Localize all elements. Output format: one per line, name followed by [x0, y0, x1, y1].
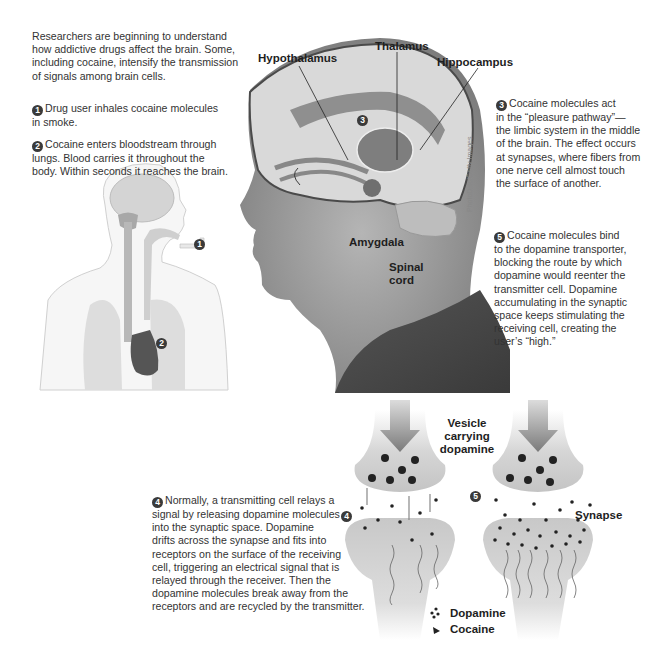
step-1-marker: 1 [32, 105, 43, 116]
intro-line: including cocaine, intensify the transmi… [32, 56, 238, 69]
step-4-line: dopamine molecules break away from the [152, 587, 365, 600]
marker-1-badge: 1 [194, 239, 205, 250]
step-2-line: body. Within seconds it reaches the brai… [32, 165, 228, 178]
step-2-line: Cocaine enters bloodstream through [45, 138, 216, 150]
step-3-line: the surface of another. [496, 177, 640, 190]
label-amygdala: Amygdala [349, 236, 404, 249]
marker-2-badge: 2 [156, 338, 167, 349]
marker-2: 2 [156, 331, 169, 349]
label-spinal-cord: Spinal cord [389, 261, 424, 287]
photo-credit: PhotoDisc/Getty Images [466, 137, 473, 212]
body-figure [40, 164, 228, 390]
intro-line: how addictive drugs affect the brain. So… [32, 43, 238, 56]
label-synapse: Synapse [575, 509, 622, 522]
step-5-line: receiving cell, creating the [494, 322, 627, 335]
intro-line: of signals among brain cells. [32, 70, 238, 83]
legend-dopamine-label: Dopamine [450, 607, 506, 620]
label-vesicle-line: dopamine [439, 443, 495, 456]
step-5-line: user’s “high.” [494, 335, 627, 348]
marker-3-badge: 3 [357, 115, 368, 126]
step-5-line: accumulating in the synaptic [494, 296, 627, 309]
marker-1: 1 [194, 232, 207, 250]
step-4-line: signal by releasing dopamine molecules [152, 508, 365, 521]
step-1-line: in smoke. [32, 116, 218, 129]
step-2-text: 2Cocaine enters bloodstream through lung… [32, 138, 228, 178]
step-5-line: blocking the route by which [494, 256, 627, 269]
label-spinal-line: Spinal [389, 261, 424, 274]
step-5-text: 5Cocaine molecules bind to the dopamine … [494, 229, 627, 349]
step-5-line: to the dopamine transporter, [494, 243, 627, 256]
label-vesicle: Vesicle carrying dopamine [439, 417, 495, 456]
step-3-line: the limbic system in the middle [496, 124, 640, 137]
legend-cocaine-label: Cocaine [450, 623, 495, 636]
step-3-marker: 3 [496, 100, 507, 111]
marker-5: 5 [470, 484, 483, 502]
step-5-line: Cocaine molecules bind [507, 229, 619, 241]
label-thalamus: Thalamus [375, 40, 429, 53]
marker-4-badge: 4 [341, 511, 352, 522]
intro-text: Researchers are beginning to understand … [32, 30, 238, 83]
label-hypothalamus: Hypothalamus [258, 52, 337, 65]
intro-line: Researchers are beginning to understand [32, 30, 238, 43]
step-3-line: in the “pleasure pathway”— [496, 111, 640, 124]
step-5-line: space keeps stimulating the [494, 309, 627, 322]
step-3-line: one nerve cell almost touch [496, 164, 640, 177]
legend-cocaine-icon [433, 627, 440, 634]
step-4-line: drifts across the synapse and fits into [152, 534, 365, 547]
step-5-marker: 5 [494, 232, 505, 243]
step-3-line: Cocaine molecules act [509, 97, 616, 109]
step-2-marker: 2 [32, 141, 43, 152]
step-3-text: 3Cocaine molecules act in the “pleasure … [496, 97, 640, 190]
label-hippocampus: Hippocampus [437, 56, 513, 69]
marker-3: 3 [357, 108, 370, 126]
marker-4: 4 [341, 504, 354, 522]
step-3-line: at synapses, where fibers from [496, 151, 640, 164]
label-spinal-line: cord [389, 274, 424, 287]
step-4-line: relayed through the receiver. Then the [152, 574, 365, 587]
step-4-line: cell, triggering an electrical signal th… [152, 561, 365, 574]
head-photo [240, 38, 510, 393]
step-1-text: 1Drug user inhales cocaine molecules in … [32, 102, 218, 129]
legend-dopamine-icon [430, 607, 439, 618]
step-4-marker: 4 [152, 497, 163, 508]
step-5-line: dopamine would reenter the [494, 269, 627, 282]
step-4-line: Normally, a transmitting cell relays a [165, 494, 334, 506]
label-vesicle-line: Vesicle [439, 417, 495, 430]
step-4-text: 4Normally, a transmitting cell relays a … [152, 494, 365, 614]
step-2-line: lungs. Blood carries it throughout the [32, 152, 228, 165]
step-4-line: receptors on the surface of the receivin… [152, 548, 365, 561]
step-1-line: Drug user inhales cocaine molecules [45, 102, 218, 114]
step-4-line: receptors and are recycled by the transm… [152, 600, 365, 613]
marker-5-badge: 5 [470, 491, 481, 502]
step-3-line: of the brain. The effect occurs [496, 137, 640, 150]
label-vesicle-line: carrying [439, 430, 495, 443]
step-5-line: transmitter cell. Dopamine [494, 283, 627, 296]
step-4-line: into the synaptic space. Dopamine [152, 521, 365, 534]
